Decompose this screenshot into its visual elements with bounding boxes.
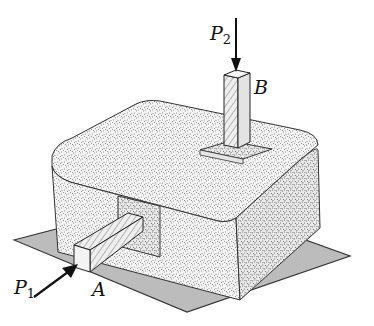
force-arrow-p2 [231,18,241,72]
post-b-front [224,75,238,148]
label-p2: P2 [210,24,231,46]
post-a-end [74,245,90,272]
post-b-side [238,73,250,148]
label-b: B [254,78,268,97]
concrete-block-diagram [0,0,374,326]
force-arrow-p1 [34,264,78,297]
label-a: A [92,280,106,299]
label-p1: P1 [14,278,35,300]
